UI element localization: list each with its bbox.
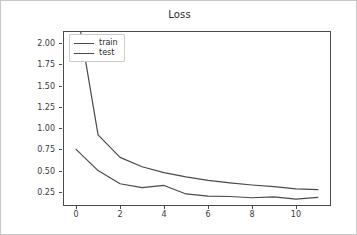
legend-line-icon xyxy=(74,43,94,44)
y-axis-tick-mark xyxy=(59,86,62,87)
x-axis-tick-mark xyxy=(208,206,209,209)
x-axis-tick-label: 4 xyxy=(152,210,176,219)
y-axis-tick-label: 0.75 xyxy=(27,145,55,154)
x-axis-tick-label: 0 xyxy=(64,210,88,219)
figure-canvas: Loss 0.250.500.751.001.251.501.752.00 02… xyxy=(0,0,357,235)
legend-item-train: train xyxy=(74,38,118,48)
x-axis-tick-label: 6 xyxy=(196,210,220,219)
y-axis-tick-label: 0.25 xyxy=(27,187,55,196)
x-axis-tick-mark xyxy=(76,206,77,209)
x-axis-tick-label: 8 xyxy=(240,210,264,219)
y-axis-tick-mark xyxy=(59,192,62,193)
legend-item-test: test xyxy=(74,48,118,58)
y-axis-tick-mark xyxy=(59,128,62,129)
y-axis-tick-mark xyxy=(59,43,62,44)
legend-label-train: train xyxy=(99,38,118,48)
x-axis-tick-mark xyxy=(120,206,121,209)
y-axis-tick-mark xyxy=(59,171,62,172)
legend-label-test: test xyxy=(99,48,114,58)
y-axis-tick-label: 1.25 xyxy=(27,102,55,111)
y-axis-tick-label: 0.50 xyxy=(27,166,55,175)
x-axis-tick-mark xyxy=(296,206,297,209)
y-axis-tick-label: 1.50 xyxy=(27,81,55,90)
x-axis-tick-mark xyxy=(252,206,253,209)
y-axis-tick-label: 1.00 xyxy=(27,124,55,133)
line-series-test xyxy=(76,149,318,199)
legend-line-icon xyxy=(74,53,94,54)
x-axis-tick-label: 10 xyxy=(284,210,308,219)
x-axis-tick-label: 2 xyxy=(108,210,132,219)
y-axis-tick-mark xyxy=(59,149,62,150)
y-axis-tick-label: 1.75 xyxy=(27,60,55,69)
y-axis-tick-mark xyxy=(59,64,62,65)
y-axis-tick-mark xyxy=(59,107,62,108)
y-axis-tick-labels: 0.250.500.751.001.251.501.752.00 xyxy=(25,1,55,235)
legend: train test xyxy=(69,34,125,62)
x-axis-tick-mark xyxy=(164,206,165,209)
y-axis-tick-label: 2.00 xyxy=(27,39,55,48)
